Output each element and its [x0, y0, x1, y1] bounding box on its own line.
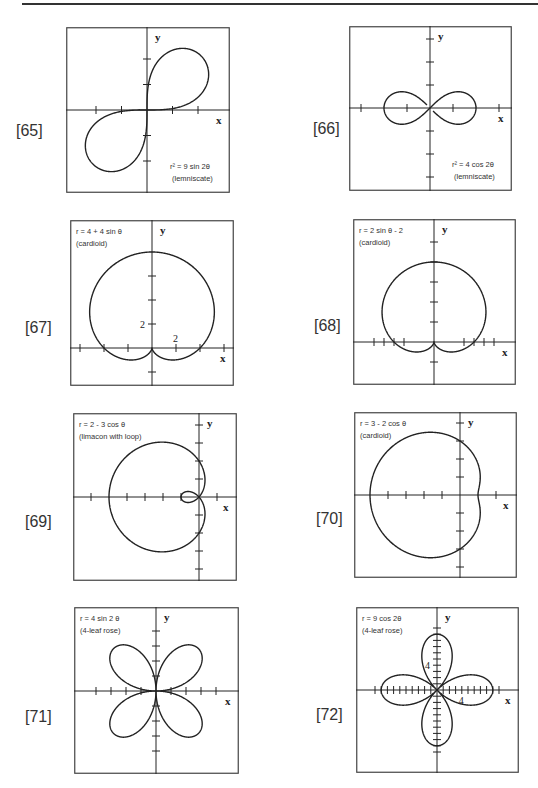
y-axis-label: y: [160, 224, 166, 236]
x-axis-label: x: [505, 694, 511, 706]
x-axis-label: x: [216, 114, 222, 126]
equation-label: r = 4 sin 2 θ: [80, 614, 119, 623]
polar-plot-svg: xyr = 2 - 3 cos θ(limacon with loop): [73, 413, 237, 581]
curve-name-label: (lemniscate): [172, 174, 213, 183]
y-axis-label: y: [207, 417, 213, 429]
panel-label-69: [69]: [25, 513, 52, 531]
curve-name-label: (cardioid): [360, 431, 392, 440]
plot-65: xyr² = 9 sin 2θ(lemniscate): [66, 27, 230, 193]
plot-68: xyr = 2 sin θ - 2(cardioid): [353, 219, 516, 385]
equation-label: r = 3 - 2 cos θ: [360, 419, 406, 428]
plot-69: xyr = 2 - 3 cos θ(limacon with loop): [73, 413, 237, 581]
polar-plot-svg: xy44r = 9 cos 2θ(4-leaf rose): [356, 607, 519, 773]
y-axis-label: y: [445, 611, 451, 623]
panel-label-68: [68]: [314, 317, 341, 335]
curve-name-label: (lemniscate): [454, 172, 495, 181]
y-axis-label: y: [438, 30, 444, 42]
x-axis-label: x: [503, 499, 509, 511]
tick-label: 2: [173, 333, 178, 344]
equation-label: r = 2 - 3 cos θ: [79, 420, 125, 429]
curve-name-label: (4-leaf rose): [80, 626, 121, 635]
equation-label: r² = 4 cos 2θ: [452, 160, 494, 169]
page-top-rule: [22, 3, 538, 5]
x-axis-label: x: [223, 501, 229, 513]
equation-label: r = 4 + 4 sin θ: [76, 227, 122, 236]
panel-label-71: [71]: [25, 708, 52, 726]
polar-plot-svg: xyr = 2 sin θ - 2(cardioid): [353, 219, 516, 385]
panel-label-70: [70]: [316, 510, 343, 528]
y-axis-label: y: [155, 31, 161, 43]
x-axis-label: x: [220, 352, 226, 364]
polar-plot-svg: xyr² = 4 cos 2θ(lemniscate): [349, 26, 512, 191]
x-axis-label: x: [502, 346, 508, 358]
panel-label-72: [72]: [316, 706, 343, 724]
curve-name-label: (limacon with loop): [79, 432, 142, 441]
y-axis-label: y: [164, 611, 170, 623]
equation-label: r = 2 sin θ - 2: [359, 226, 403, 235]
plot-66: xyr² = 4 cos 2θ(lemniscate): [349, 26, 512, 191]
equation-label: r² = 9 sin 2θ: [170, 162, 210, 171]
panel-label-65: [65]: [16, 122, 43, 140]
curve-name-label: (4-leaf rose): [362, 626, 403, 635]
y-axis-label: y: [442, 223, 448, 235]
plot-67: xy22r = 4 + 4 sin θ(cardioid): [70, 220, 234, 386]
plot-72: xy44r = 9 cos 2θ(4-leaf rose): [356, 607, 519, 773]
polar-plot-svg: xyr² = 9 sin 2θ(lemniscate): [66, 27, 230, 193]
equation-label: r = 9 cos 2θ: [362, 614, 401, 623]
x-axis-label: x: [225, 695, 231, 707]
polar-plot-svg: xy22r = 4 + 4 sin θ(cardioid): [70, 220, 234, 386]
y-axis-label: y: [468, 416, 474, 428]
polar-plot-svg: xyr = 4 sin 2 θ(4-leaf rose): [74, 607, 239, 774]
panel-label-67: [67]: [25, 319, 52, 337]
polar-plot-svg: xyr = 3 - 2 cos θ(cardioid): [354, 412, 517, 578]
plot-71: xyr = 4 sin 2 θ(4-leaf rose): [74, 607, 239, 774]
curve-name-label: (cardioid): [359, 238, 391, 247]
panel-label-66: [66]: [313, 120, 340, 138]
tick-label: 4: [425, 660, 430, 671]
plot-70: xyr = 3 - 2 cos θ(cardioid): [354, 412, 517, 578]
tick-label: 4: [459, 695, 464, 706]
tick-label: 2: [140, 319, 145, 330]
curve-name-label: (cardioid): [76, 239, 108, 248]
x-axis-label: x: [498, 112, 504, 124]
